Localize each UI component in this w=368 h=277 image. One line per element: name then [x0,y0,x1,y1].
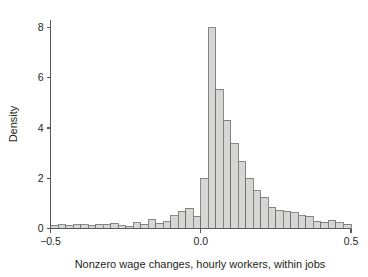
histogram-bars [51,28,352,229]
y-axis-title: Density [7,105,19,142]
histogram-bar [336,223,344,229]
x-tick-label: 0.0 [193,235,208,247]
y-tick-label: 6 [38,71,44,83]
histogram-bar [193,216,201,228]
histogram-figure: 02468 −0.50.00.5 Nonzero wage changes, h… [0,0,368,277]
histogram-bar [261,197,269,228]
histogram-bar [148,220,156,229]
x-axis-title: Nonzero wage changes, hourly workers, wi… [75,258,326,270]
histogram-bar [313,221,321,228]
histogram-bar [103,224,111,228]
histogram-bar [201,178,209,228]
histogram-bar [178,211,186,228]
x-tick-label: 0.5 [344,235,359,247]
histogram-bar [156,223,164,228]
histogram-bar [186,208,194,228]
histogram-bar [253,191,261,229]
histogram-bar [141,224,149,228]
y-axis-ticks: 02468 [38,21,51,234]
y-tick-label: 4 [38,122,44,134]
histogram-bar [238,162,246,229]
histogram-bar [246,178,254,228]
histogram-bar [328,220,336,228]
histogram-bar [171,216,179,229]
histogram-bar [231,144,239,229]
y-tick-label: 0 [38,222,44,234]
histogram-bar [283,211,291,228]
histogram-bar [96,224,104,228]
histogram-bar [216,89,224,228]
histogram-bar [276,210,284,228]
histogram-bar [343,224,351,228]
histogram-bar [73,225,81,229]
chart-canvas: 02468 −0.50.00.5 Nonzero wage changes, h… [0,0,368,277]
x-axis-ticks: −0.50.00.5 [40,229,358,247]
x-tick-label: −0.5 [40,235,61,247]
y-tick-label: 2 [38,172,44,184]
y-tick-label: 8 [38,21,44,33]
histogram-bar [291,213,299,229]
histogram-bar [321,222,329,228]
histogram-bar [133,223,141,229]
histogram-bar [163,222,171,229]
histogram-bar [111,223,119,228]
histogram-bar [268,207,276,228]
histogram-bar [298,216,306,229]
histogram-bar [58,225,66,229]
histogram-bar [306,216,314,228]
histogram-bar [208,28,216,229]
histogram-bar [223,120,231,228]
